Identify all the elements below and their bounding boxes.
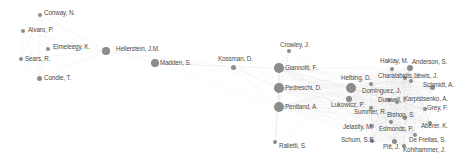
node-label: Alvaro, P. xyxy=(28,27,54,33)
edge xyxy=(39,15,40,78)
edge xyxy=(275,88,279,142)
edge xyxy=(155,63,279,107)
node-label: Kohlhammer, J. xyxy=(403,147,445,153)
node-label: Schum, S.B. xyxy=(341,137,375,143)
node-lewis[interactable] xyxy=(409,79,413,83)
node-label: Conway, N. xyxy=(44,10,75,16)
node-giannotti[interactable] xyxy=(274,63,284,73)
edge xyxy=(233,67,279,88)
node-label: Giannotti, F. xyxy=(285,65,317,71)
node-label: Anderson, S. xyxy=(412,59,447,65)
node-label: Schmidt, A. xyxy=(423,82,454,88)
node-label: Hellerstein, J.M. xyxy=(116,46,159,52)
node-label: Ralietti, S. xyxy=(279,143,307,149)
node-label: Edmonds, P. xyxy=(379,126,413,132)
node-label: Madden, S. xyxy=(160,60,191,66)
edge-layer xyxy=(0,0,467,163)
node-label: Kossman, D. xyxy=(218,56,253,62)
node-hellerstein[interactable] xyxy=(102,47,110,55)
node-label: Dominguez, J. xyxy=(362,88,401,94)
edge xyxy=(106,51,155,63)
node-label: Pentland, A. xyxy=(285,104,318,110)
node-label: Helbing, D. xyxy=(341,75,371,81)
node-label: Sears, R. xyxy=(25,56,50,62)
node-pedreschi[interactable] xyxy=(274,83,284,93)
network-diagram: Conway, N.Alvaro, P.Elmeleegy, K.Sears, … xyxy=(0,0,467,163)
node-label: Haklay, M. xyxy=(380,58,408,64)
node-label: De Freitas, S. xyxy=(409,137,446,143)
node-label: Grey, F. xyxy=(427,105,448,111)
node-label: Lewis, J. xyxy=(414,73,438,79)
node-label: Elmeleegy, K. xyxy=(53,44,90,50)
node-madden[interactable] xyxy=(151,59,159,67)
node-label: Summer, R. xyxy=(354,109,386,115)
node-label: Bishop, S. xyxy=(387,112,415,118)
edge xyxy=(233,67,279,107)
node-condie[interactable] xyxy=(37,76,42,81)
node-edmonds[interactable] xyxy=(389,120,393,124)
node-label: Condie, T. xyxy=(44,75,71,81)
node-haklay[interactable] xyxy=(390,67,394,71)
node-label: Karpistsenko, A. xyxy=(404,96,448,102)
node-anderson[interactable] xyxy=(407,65,413,71)
node-kossman[interactable] xyxy=(231,65,236,70)
node-label: Pedreschi, D. xyxy=(285,85,322,91)
node-label: Jelasity, M. xyxy=(343,124,373,130)
node-label: Dunwell, I. xyxy=(378,97,406,103)
node-label: Crowley, J. xyxy=(280,42,310,48)
node-label: Pitt, J. xyxy=(383,144,400,150)
node-label: Aberer, K. xyxy=(421,123,448,129)
